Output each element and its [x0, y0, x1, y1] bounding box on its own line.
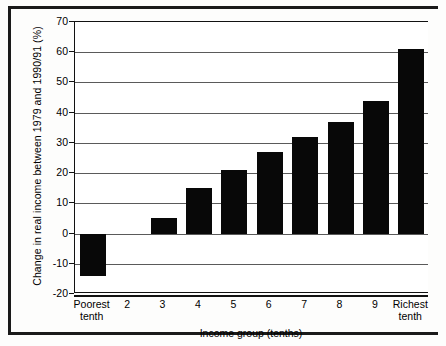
y-axis-tick-label: -10	[30, 258, 68, 269]
bar	[292, 137, 318, 234]
bar	[80, 234, 106, 276]
bar	[257, 152, 283, 234]
y-axis-tick-label: 0	[30, 227, 68, 238]
bar-series	[75, 22, 428, 292]
x-axis-label: Income group (tenths)	[74, 327, 428, 339]
y-axis-tick-label: 20	[30, 167, 68, 178]
y-axis-tick-label: -20	[30, 288, 68, 299]
figure-top-rule	[8, 6, 438, 9]
bar	[221, 170, 247, 233]
y-axis-tick-label: 60	[30, 46, 68, 57]
y-axis-tick-label: 40	[30, 106, 68, 117]
x-axis-tick-label: Richest tenth	[382, 299, 438, 322]
y-axis-tick-label: 30	[30, 137, 68, 148]
plot-area	[74, 21, 428, 293]
x-axis-line	[74, 295, 428, 297]
bar	[398, 49, 424, 233]
y-axis-tick-label: 70	[30, 16, 68, 27]
bar	[328, 122, 354, 234]
bar	[151, 218, 177, 233]
y-axis-tick-label: 50	[30, 76, 68, 87]
y-axis-tick-mark	[69, 293, 74, 294]
y-axis-tick-label: 10	[30, 197, 68, 208]
chart-figure: Change in real income between 1979 and 1…	[0, 0, 446, 346]
bar	[363, 101, 389, 234]
bar	[186, 188, 212, 233]
